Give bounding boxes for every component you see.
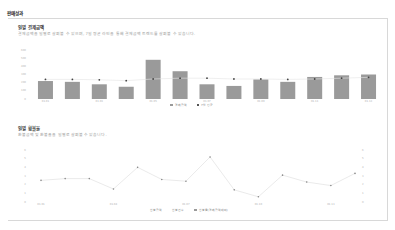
legend-swatch-icon <box>194 209 197 212</box>
refund-rate-point[interactable] <box>113 188 115 190</box>
refund-rate-point[interactable] <box>306 181 308 183</box>
refund-rate-point[interactable] <box>64 178 66 180</box>
refund-rate-point[interactable] <box>330 185 332 187</box>
refund-rate-point[interactable] <box>185 180 187 182</box>
legend-item-refund-count[interactable]: 환불건수 <box>172 208 184 212</box>
legend-item-refund-amount[interactable]: 환불금액 <box>150 208 162 212</box>
refund-rate-point[interactable] <box>89 178 91 180</box>
refund-rate-point[interactable] <box>161 179 163 181</box>
refund-rate-point[interactable] <box>354 173 356 175</box>
refund-rate-point[interactable] <box>209 156 211 158</box>
refund-rate-point[interactable] <box>258 196 260 198</box>
refund-rate-point[interactable] <box>233 189 235 191</box>
refund-rate-point[interactable] <box>282 174 284 176</box>
refund-line-chart <box>0 0 395 230</box>
refund-rate-point[interactable] <box>40 180 42 182</box>
legend-item-refund-rate[interactable]: 환불율(결제금액대비) <box>194 208 228 212</box>
line-chart-legend: 환불금액 환불건수 환불율(결제금액대비) <box>150 208 228 212</box>
refund-rate-point[interactable] <box>137 167 139 169</box>
